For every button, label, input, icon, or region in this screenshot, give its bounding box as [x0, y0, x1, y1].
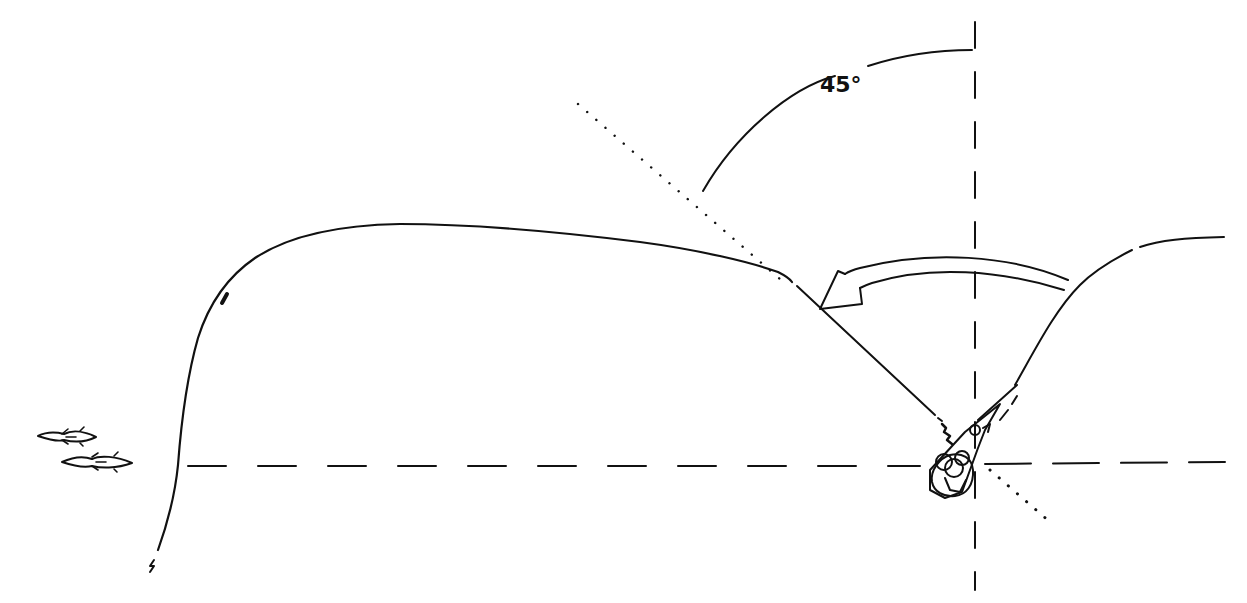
fish-group — [38, 427, 132, 472]
angler-figure — [930, 404, 1000, 498]
fishing-cast-diagram: 45° — [0, 0, 1247, 603]
horizontal-axis-dashed-line — [188, 462, 1225, 466]
sweep-arrow — [820, 257, 1068, 309]
cast-line — [150, 224, 942, 572]
fish-icon-upper — [38, 427, 96, 446]
angle-label: 45° — [820, 72, 862, 97]
diagonal-45-dotted-line — [578, 104, 1050, 522]
fish-icon-lower — [62, 452, 132, 472]
